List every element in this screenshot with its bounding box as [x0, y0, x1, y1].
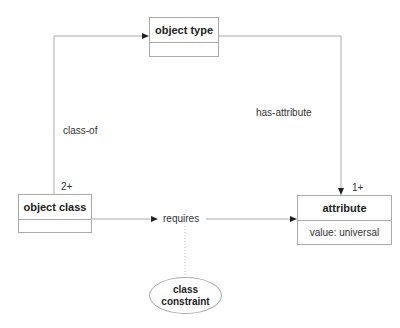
attribute-node[interactable]: attribute value: universal [297, 195, 392, 245]
class-of-multiplicity: 2+ [61, 181, 72, 192]
has-attribute-multiplicity: 1+ [352, 182, 363, 193]
object-type-title: object type [150, 18, 218, 43]
arrowhead-icon [290, 216, 297, 222]
object-class-body [19, 220, 91, 232]
class-of-edge [54, 36, 143, 194]
arrowhead-icon [338, 188, 344, 195]
class-of-label: class-of [63, 125, 97, 136]
has-attribute-label: has-attribute [256, 107, 312, 118]
object-class-node[interactable]: object class [18, 194, 92, 233]
class-constraint-line2: constraint [161, 296, 209, 308]
class-constraint-line1: class [161, 284, 209, 296]
requires-label: requires [163, 213, 199, 224]
object-type-body [150, 43, 218, 56]
object-class-title: object class [19, 195, 91, 220]
attribute-value: value: universal [298, 221, 391, 244]
arrowhead-icon [151, 216, 158, 222]
attribute-title: attribute [298, 196, 391, 221]
object-type-node[interactable]: object type [149, 17, 219, 57]
class-constraint-node[interactable]: class constraint [149, 277, 222, 314]
arrowhead-icon [142, 33, 149, 39]
